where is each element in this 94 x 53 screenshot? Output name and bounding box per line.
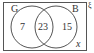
set-b-label: B — [72, 3, 79, 14]
region-intersection: 23 — [38, 21, 48, 32]
venn-diagram: G B ξ 7 23 15 x — [0, 0, 94, 53]
region-g-only: 7 — [20, 21, 25, 32]
set-g-label: G — [11, 3, 18, 14]
region-b-only: 15 — [62, 21, 72, 32]
region-outside: x — [75, 38, 81, 49]
universal-set-symbol: ξ — [88, 1, 92, 10]
